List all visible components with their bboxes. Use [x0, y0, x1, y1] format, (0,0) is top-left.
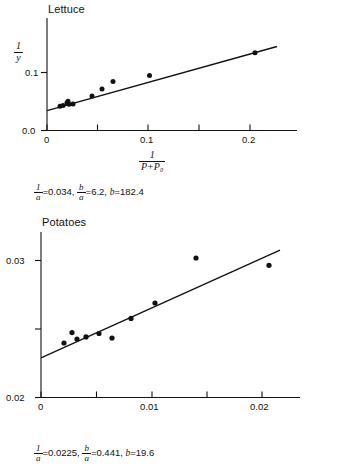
x-ticklabel-0.01-potatoes: 0.01: [140, 401, 159, 412]
y-ticklabel-0.02-potatoes: 0.02: [6, 392, 25, 403]
x-ticklabel-0.2-lettuce: 0.2: [242, 134, 255, 145]
fit-line-potatoes: [41, 250, 280, 358]
x-axis-label-numerator: 1: [139, 150, 165, 161]
data-point: [100, 87, 105, 92]
data-point: [61, 340, 66, 345]
data-point: [128, 316, 133, 321]
caption-term1-value: =0.034: [43, 186, 72, 197]
chart-panel-lettuce: Lettuce: [0, 0, 350, 185]
chart-panel-potatoes: Potatoes: [0, 215, 350, 435]
data-point: [147, 73, 152, 78]
data-point: [71, 102, 76, 107]
caption-term2-denominator: a: [77, 192, 86, 202]
caption-term1-denominator: a: [34, 453, 43, 463]
data-point: [74, 336, 79, 341]
data-point: [90, 93, 95, 98]
caption-term2-denominator: a: [82, 453, 91, 463]
caption-term2-numerator: b: [77, 183, 86, 192]
data-point: [69, 330, 74, 335]
x-ticklabel-0-lettuce: 0: [44, 134, 49, 145]
y-ticklabel-0.03-potatoes: 0.03: [6, 255, 25, 266]
data-point: [96, 331, 101, 336]
data-point: [152, 300, 157, 305]
x-axis-label-denominator: P+P₀: [139, 161, 165, 173]
caption-lettuce: 1 a =0.034, b a =6.2, b=182.4: [34, 183, 144, 203]
caption-potatoes: 1 a =0.0225, b a =0.441, b=19.6: [34, 444, 154, 464]
x-ticklabel-0-potatoes: 0: [38, 401, 43, 412]
caption-term2-value: =6.2,: [86, 186, 107, 197]
caption-term1-denominator: a: [34, 192, 43, 202]
plot-area-potatoes: [0, 215, 350, 435]
y-ticklabel-0.0-lettuce: 0.0: [22, 125, 35, 136]
y-axis-label-numerator: 1: [14, 41, 23, 52]
data-point: [253, 50, 258, 55]
x-ticklabel-0.02-potatoes: 0.02: [250, 401, 269, 412]
caption-term1-numerator: 1: [34, 444, 43, 453]
caption-term2-value: =0.441,: [91, 447, 123, 458]
x-axis-label-lettuce: 1 P+P₀: [139, 150, 165, 172]
data-point: [111, 79, 116, 84]
x-ticklabel-0.1-lettuce: 0.1: [140, 134, 153, 145]
data-point: [266, 263, 271, 268]
caption-term2-numerator: b: [82, 444, 91, 453]
y-ticklabel-0.1-lettuce: 0.1: [25, 67, 38, 78]
caption-term3-value: =182.4: [114, 186, 143, 197]
figure-two-panel-lineweaver-plots: Lettuce: [0, 0, 350, 470]
caption-separator-1: ,: [72, 186, 75, 197]
caption-term1-value: =0.0225,: [43, 447, 80, 458]
data-point: [83, 334, 88, 339]
caption-term3-value: =19.6: [130, 447, 154, 458]
y-axis-label-lettuce: 1 y: [14, 41, 23, 63]
data-point: [193, 255, 198, 260]
y-axis-label-denominator: y: [14, 52, 23, 64]
fit-line-lettuce: [47, 47, 277, 111]
data-point: [109, 335, 114, 340]
caption-term1-numerator: 1: [34, 183, 43, 192]
plot-area-lettuce: [0, 0, 350, 185]
